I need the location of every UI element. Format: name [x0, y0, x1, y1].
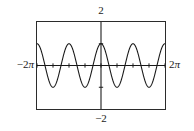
y-max-label: 2: [92, 5, 110, 16]
x-max-pi-symbol: π: [175, 58, 181, 70]
axes-group: [37, 22, 165, 109]
x-max-label: 2π: [169, 59, 194, 70]
y-min-label: −2: [92, 113, 110, 124]
x-min-pi-symbol: π: [28, 58, 34, 70]
graph-figure: 2 −2 −2π 2π: [0, 0, 194, 131]
plot-canvas: [37, 22, 165, 109]
x-min-number: −2: [17, 58, 29, 70]
plot-viewing-window: [36, 21, 166, 110]
x-min-label: −2π: [3, 59, 34, 70]
